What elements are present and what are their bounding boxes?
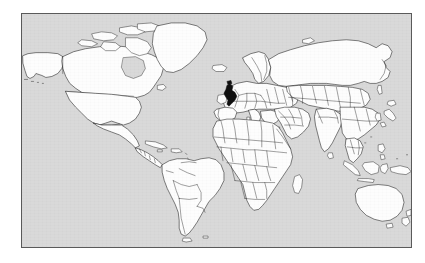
islands-falklands bbox=[203, 236, 208, 238]
island-tasmania bbox=[386, 223, 393, 228]
world-map-frame bbox=[21, 13, 412, 248]
figure-page bbox=[0, 0, 425, 263]
country-united-kingdom-scotland-north[interactable] bbox=[227, 80, 232, 84]
island-jamaica bbox=[157, 150, 162, 152]
world-map[interactable] bbox=[22, 14, 411, 247]
island-tierra-del-fuego bbox=[182, 238, 192, 242]
